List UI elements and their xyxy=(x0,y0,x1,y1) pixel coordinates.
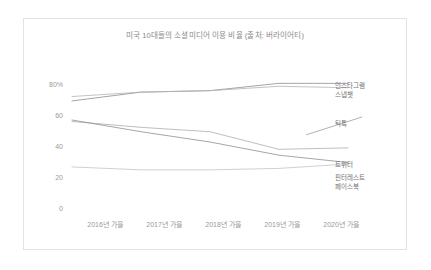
series-label-pinterest: 핀터레스트 xyxy=(335,174,365,182)
series-label-snapchat: 스냅챗 xyxy=(335,91,353,99)
series-line xyxy=(72,120,348,163)
x-axis-tick-2018: 2018년 가을 xyxy=(190,219,256,229)
series-line xyxy=(72,164,348,170)
series-label-tiktok: 틱톡 xyxy=(335,120,347,128)
x-axis-tick-2017: 2017년 가을 xyxy=(131,219,197,229)
series-line xyxy=(72,83,348,101)
series-label-facebook: 페이스북 xyxy=(335,183,359,191)
x-axis-tick-2020: 2020년 가을 xyxy=(308,219,374,229)
series-label-instagram: 인스타그램 xyxy=(335,82,365,90)
y-axis-tick-40: 40 xyxy=(29,143,63,150)
y-axis-tick-80: 80% xyxy=(29,81,63,88)
series-label-twitter: 트위터 xyxy=(335,161,353,169)
x-axis-tick-2019: 2019년 가을 xyxy=(249,219,315,229)
chart-card: 미국 10대들의 소셜미디어 이용 비율 (출처: 버라이어티) 80% 60 … xyxy=(23,18,407,250)
plot-area: 80% 60 40 20 0 2016년 가을 2017년 가을 2018년 가… xyxy=(24,19,408,251)
series-line xyxy=(72,121,348,149)
series-line xyxy=(72,86,348,96)
y-axis-tick-60: 60 xyxy=(29,112,63,119)
y-axis-tick-20: 20 xyxy=(29,174,63,181)
y-axis-tick-0: 0 xyxy=(29,205,63,212)
chart-lines xyxy=(24,19,408,251)
x-axis-tick-2016: 2016년 가을 xyxy=(72,219,138,229)
